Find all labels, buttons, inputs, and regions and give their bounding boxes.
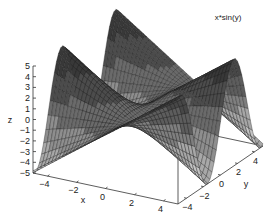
y-tick-label: 4 (253, 156, 258, 166)
z-tick-label: −1 (20, 125, 30, 135)
z-tick-label: 2 (25, 93, 30, 103)
x-tick-label: 2 (129, 198, 134, 208)
x-tick-label: −4 (39, 179, 49, 189)
y-tick (184, 198, 187, 199)
x-tick-label: 4 (158, 204, 163, 214)
z-tick-label: 5 (25, 61, 30, 71)
z-tick-label: −3 (20, 147, 30, 157)
x-tick (106, 187, 108, 188)
y-tick-label: −4 (182, 202, 192, 212)
x-tick-label: 0 (100, 192, 105, 202)
z-tick-label: 0 (25, 115, 30, 125)
x-tick (77, 181, 79, 182)
z-tick-label: −2 (20, 136, 30, 146)
x-axis-label: x (81, 195, 86, 205)
y-tick (235, 163, 238, 164)
z-tick-label: 1 (25, 104, 30, 114)
surface-plot: −5−4−3−2−1012345−4−2024−4−2024 x*sin(y) … (0, 0, 277, 217)
z-tick-label: −4 (20, 157, 30, 167)
z-tick-label: 3 (25, 82, 30, 92)
x-tick (48, 175, 50, 176)
y-tick (201, 186, 204, 187)
legend-label: x*sin(y) (215, 13, 242, 22)
y-tick (252, 151, 255, 152)
y-tick-label: 2 (236, 167, 241, 177)
y-axis-label: y (244, 179, 249, 189)
z-tick-label: 4 (25, 72, 30, 82)
x-tick (135, 193, 137, 194)
y-tick-label: 0 (219, 179, 224, 189)
z-axis-label: z (8, 115, 13, 125)
x-tick-label: −2 (68, 185, 78, 195)
surface-mesh (33, 10, 263, 185)
z-tick-label: −5 (20, 168, 30, 178)
y-tick-label: −2 (199, 191, 209, 201)
y-tick (218, 175, 221, 176)
x-tick (164, 200, 166, 201)
